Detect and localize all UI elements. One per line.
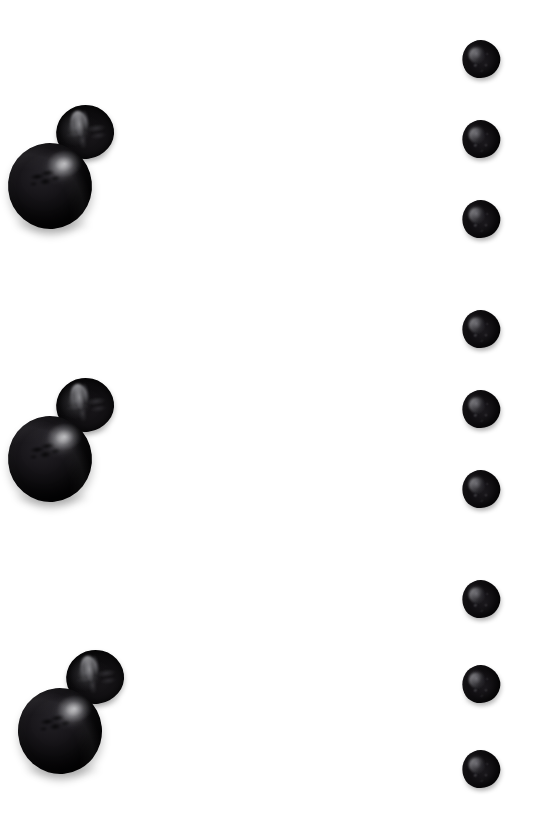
tomato-calyx-scar (26, 164, 65, 194)
seed-specimen (462, 665, 502, 705)
specimen-sheet (0, 0, 552, 817)
seed-specimen (462, 40, 502, 80)
tomato-calyx-scar (36, 709, 75, 739)
seed-specimen (462, 750, 502, 790)
seed-specimen (462, 470, 502, 510)
tomato-group (4, 378, 144, 528)
seed-specimen (462, 120, 502, 160)
tomato-calyx-scar (26, 437, 65, 467)
seed-specimen (462, 580, 502, 620)
tomato-group (14, 650, 154, 800)
seed-specimen (462, 310, 502, 350)
tomato-group (4, 105, 144, 255)
seed-specimen (462, 390, 502, 430)
seed-specimen (462, 200, 502, 240)
